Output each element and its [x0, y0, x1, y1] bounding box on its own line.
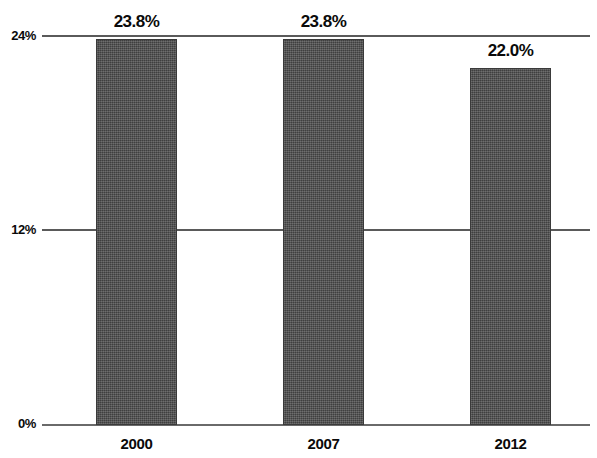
plot-area: [0, 0, 597, 458]
x-axis-label-2007: 2007: [283, 435, 364, 452]
x-axis-label-2000: 2000: [96, 435, 177, 452]
value-label-2000: 23.8%: [96, 12, 177, 31]
bar-2000: [96, 39, 177, 425]
value-label-2012: 22.0%: [470, 41, 551, 60]
x-axis-label-2012: 2012: [470, 435, 551, 452]
bar-2012: [470, 68, 551, 425]
bar-2007: [283, 39, 364, 425]
value-label-2007: 23.8%: [283, 12, 364, 31]
bar-chart: 24% 12% 0% 23.8% 23.8% 22.0% 2000 2007 2…: [0, 0, 597, 458]
